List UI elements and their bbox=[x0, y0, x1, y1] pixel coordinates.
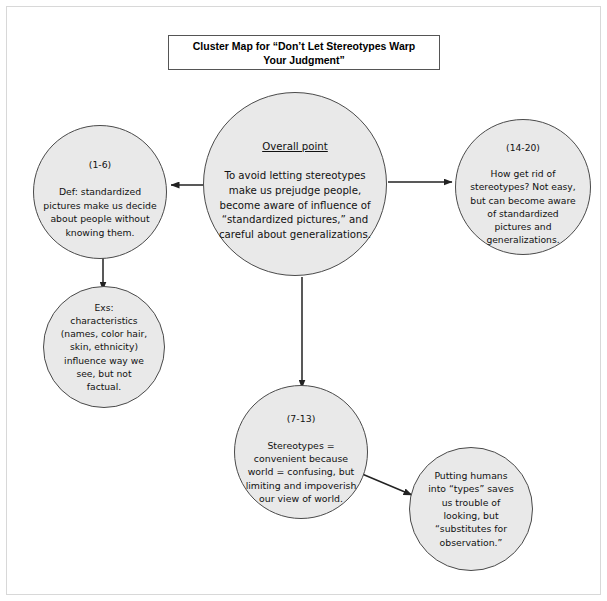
cluster-map-page: Cluster Map for “Don’t Let Stereotypes W… bbox=[0, 0, 607, 601]
node-definition-paragraphs: (1-6) bbox=[43, 158, 156, 171]
node-definition-text: (1-6) Def: standardized pictures make us… bbox=[37, 145, 162, 239]
node-how-to-body: How get rid of stereotypes? Not easy, bu… bbox=[470, 168, 575, 245]
node-stereotypes-body: Stereotypes = convenient because world =… bbox=[246, 440, 357, 505]
diagram-title-box: Cluster Map for “Don’t Let Stereotypes W… bbox=[168, 35, 440, 70]
node-overall-point-body: To avoid letting stereotypes make us pre… bbox=[219, 170, 371, 239]
node-examples-text: Exs: characteristics (names, color hair,… bbox=[55, 301, 154, 393]
node-how-to-text: (14-20) How get rid of stereotypes? Not … bbox=[464, 128, 581, 247]
node-putting-humans-into-types[interactable]: Putting humans into “types” saves us tro… bbox=[409, 447, 533, 571]
node-stereotypes-text: (7-13) Stereotypes = convenient because … bbox=[240, 398, 363, 505]
node-overall-point-text: Overall point To avoid letting stereotyp… bbox=[213, 126, 377, 243]
node-examples[interactable]: Exs: characteristics (names, color hair,… bbox=[43, 286, 165, 408]
node-definition-body: Def: standardized pictures make us decid… bbox=[43, 186, 156, 237]
node-stereotypes-paragraphs: (7-13) bbox=[246, 412, 357, 425]
node-definition[interactable]: (1-6) Def: standardized pictures make us… bbox=[33, 125, 167, 259]
node-stereotypes-convenient[interactable]: (7-13) Stereotypes = convenient because … bbox=[234, 385, 368, 519]
diagram-title: Cluster Map for “Don’t Let Stereotypes W… bbox=[193, 39, 415, 67]
node-overall-point-heading: Overall point bbox=[219, 140, 371, 155]
node-how-get-rid-of-stereotypes[interactable]: (14-20) How get rid of stereotypes? Not … bbox=[455, 119, 591, 255]
node-overall-point[interactable]: Overall point To avoid letting stereotyp… bbox=[203, 92, 387, 276]
node-how-to-paragraphs: (14-20) bbox=[470, 141, 575, 154]
node-types-text: Putting humans into “types” saves us tro… bbox=[422, 469, 520, 549]
